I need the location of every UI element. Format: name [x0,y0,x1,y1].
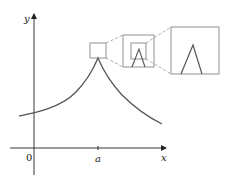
cusp-zoom-diagram: y x 0 a [0,0,226,178]
zoom-box-2 [123,35,154,67]
function-curve [19,58,162,124]
zoom-box-3 [171,27,219,74]
x-axis-label: x [161,152,167,163]
y-axis-label: y [23,13,30,24]
tick-label-a: a [95,153,101,164]
connector-1-bottom [106,58,123,67]
connector-1-top [106,35,123,43]
zoom-box-1 [90,43,106,58]
origin-label: 0 [26,152,32,163]
